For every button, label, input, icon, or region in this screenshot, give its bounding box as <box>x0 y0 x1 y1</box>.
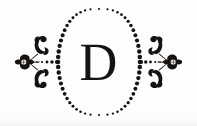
connector-dot <box>41 61 43 63</box>
frame-dot <box>71 16 74 19</box>
frame-dot <box>65 24 68 27</box>
frame-dot <box>112 112 114 114</box>
frame-dot <box>133 33 137 37</box>
frame-dot <box>127 101 130 104</box>
frame-dot <box>131 92 135 96</box>
frame-dot <box>127 20 130 23</box>
connector-dot <box>154 61 156 63</box>
frame-dot <box>61 87 65 91</box>
frame-dot <box>136 44 140 48</box>
frame-dot <box>124 105 127 108</box>
frame-dot <box>89 114 91 116</box>
frame-dot <box>129 24 132 27</box>
frame-dot <box>120 108 123 111</box>
frame-dot <box>135 38 139 42</box>
frame-dot <box>79 11 82 14</box>
frame-dot <box>116 111 119 114</box>
frame-dot <box>63 92 67 96</box>
frame-dot <box>135 81 139 85</box>
frame-dot <box>137 49 141 53</box>
frame-dot <box>124 16 127 19</box>
frame-dot <box>57 70 61 74</box>
frame-dot <box>112 9 114 11</box>
frame-dot <box>61 33 65 37</box>
connector-dot <box>50 60 53 63</box>
frame-dot <box>75 108 78 111</box>
connector-dot <box>46 61 49 64</box>
frame-dot <box>68 101 71 104</box>
frame-dot <box>138 55 142 59</box>
frame-dot <box>59 38 63 42</box>
ornament-illustration <box>0 0 197 126</box>
frame-dot <box>84 112 86 114</box>
ornament-plate: D <box>0 0 197 126</box>
frame-dot <box>120 13 123 16</box>
frame-dot <box>75 13 78 16</box>
frame-dot <box>71 105 74 108</box>
frame-dot <box>106 114 108 116</box>
frame-dot <box>133 87 137 91</box>
frame-dot <box>84 9 86 11</box>
frame-dot <box>58 44 62 48</box>
connector-dot <box>149 61 152 64</box>
frame-dot <box>65 97 68 100</box>
frame-dot <box>136 76 140 80</box>
frame-dot <box>131 28 135 32</box>
frame-dot <box>138 65 142 69</box>
frame-dot <box>137 70 141 74</box>
frame-dot <box>56 65 60 69</box>
connector-dot <box>55 60 59 64</box>
frame-dot <box>116 11 119 14</box>
frame-dot <box>57 49 61 53</box>
frame-dot <box>63 28 67 32</box>
frame-dot <box>59 81 63 85</box>
frame-dot <box>129 97 132 100</box>
frame-dot <box>98 8 100 10</box>
frame-dot <box>79 111 82 114</box>
frame-dot <box>58 76 62 80</box>
frame-dot <box>98 114 100 116</box>
frame-dot <box>68 20 71 23</box>
connector-dot <box>139 60 143 64</box>
frame-dot <box>106 8 108 10</box>
frame-dot <box>89 8 91 10</box>
connector-dot <box>144 60 147 63</box>
frame-dot <box>56 55 60 59</box>
